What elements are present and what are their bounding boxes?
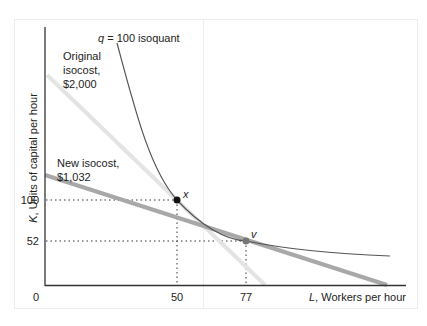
- x-tick-0: 0: [33, 291, 39, 303]
- original-isocost-label: Original isocost, $2,000: [63, 50, 104, 90]
- y-axis-label: K, Units of capital per hour: [27, 93, 39, 223]
- x-axis-label: L, Workers per hour: [309, 291, 406, 303]
- x-tick-50: 50: [171, 291, 183, 303]
- x-tick-77: 77: [240, 291, 252, 303]
- isoquant-label: q = 100 isoquant: [98, 32, 180, 44]
- new-isocost-label: New isocost, $1,032: [57, 157, 122, 183]
- chart: x v 0 50 77 100 52 L, Workers per hour K…: [0, 0, 427, 326]
- isoquant-curve: [117, 43, 390, 256]
- point-x-marker: [174, 197, 181, 204]
- point-x-label: x: [182, 188, 189, 200]
- y-tick-52: 52: [27, 235, 39, 247]
- guide-lines: [46, 200, 246, 285]
- point-v-marker: [243, 238, 250, 245]
- new-isocost-line: [45, 175, 387, 285]
- point-v-label: v: [251, 228, 258, 240]
